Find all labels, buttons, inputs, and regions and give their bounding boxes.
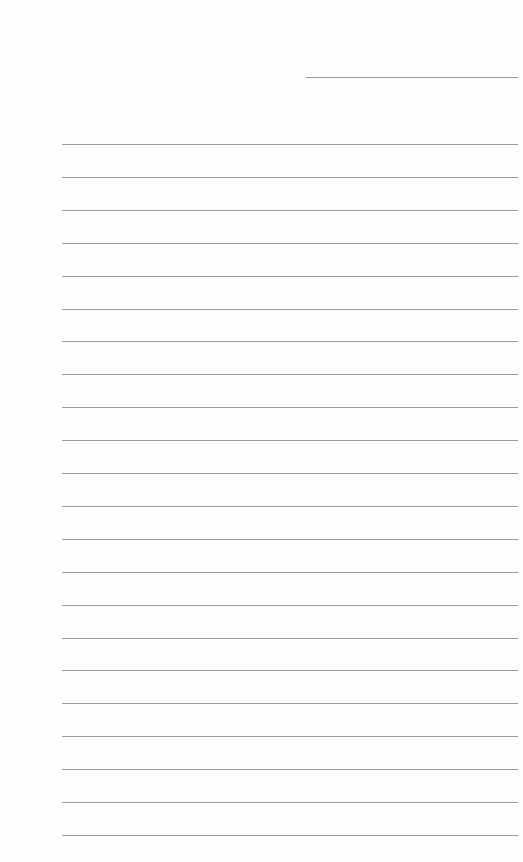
ruled-line (62, 473, 518, 474)
ruled-line (62, 276, 518, 277)
ruled-line (62, 177, 518, 178)
ruled-line (62, 736, 518, 737)
header-date-line (306, 77, 518, 78)
lined-paper-page (0, 0, 523, 862)
ruled-line (62, 144, 518, 145)
ruled-line (62, 835, 518, 836)
ruled-line (62, 407, 518, 408)
ruled-line (62, 440, 518, 441)
ruled-line (62, 572, 518, 573)
ruled-line (62, 374, 518, 375)
ruled-line (62, 309, 518, 310)
ruled-line (62, 769, 518, 770)
ruled-line (62, 638, 518, 639)
ruled-line (62, 539, 518, 540)
ruled-line (62, 341, 518, 342)
ruled-line (62, 210, 518, 211)
ruled-line (62, 802, 518, 803)
ruled-line (62, 670, 518, 671)
ruled-line (62, 605, 518, 606)
ruled-line (62, 506, 518, 507)
ruled-line (62, 243, 518, 244)
ruled-line (62, 703, 518, 704)
